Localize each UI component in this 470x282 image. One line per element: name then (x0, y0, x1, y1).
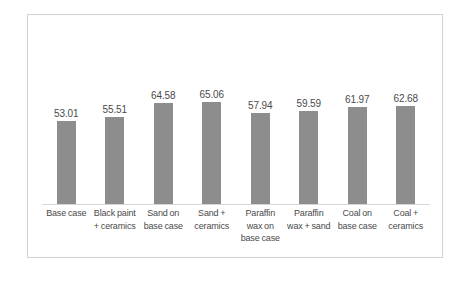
bar-value-label: 65.06 (188, 89, 237, 100)
category-label: Coal + ceramics (382, 207, 431, 232)
plot-area: 53.01 55.51 64.58 65.06 57.94 (28, 15, 442, 257)
category-label: Black paint + ceramics (91, 207, 140, 232)
bar-group: 64.58 (139, 15, 188, 204)
category-label: Sand on base case (139, 207, 188, 232)
bar-rect (57, 121, 76, 204)
bar-group: 61.97 (333, 15, 382, 204)
category-label: Paraffin wax on base case (236, 207, 285, 245)
bar-value-label: 62.68 (382, 93, 431, 104)
category-label: Sand + ceramics (188, 207, 237, 232)
category-label: Base case (42, 207, 91, 220)
bar-rect (396, 106, 415, 204)
bar-value-label: 61.97 (333, 94, 382, 105)
bar-group: 59.59 (285, 15, 334, 204)
bar-chart-figure: 53.01 55.51 64.58 65.06 57.94 (0, 0, 470, 282)
bar-rect (251, 113, 270, 204)
bar-group: 62.68 (382, 15, 431, 204)
bar-value-label: 59.59 (285, 98, 334, 109)
bar-rect (105, 117, 124, 204)
bar-value-label: 64.58 (139, 90, 188, 101)
category-label: Paraffin wax + sand (285, 207, 334, 232)
bar-rect (202, 102, 221, 204)
bar-rect (299, 111, 318, 204)
chart-frame: 53.01 55.51 64.58 65.06 57.94 (27, 14, 443, 258)
bar-rect (348, 107, 367, 204)
bar-group: 55.51 (91, 15, 140, 204)
bar-value-label: 55.51 (91, 104, 140, 115)
bar-group: 57.94 (236, 15, 285, 204)
bar-group: 53.01 (42, 15, 91, 204)
bar-group: 65.06 (188, 15, 237, 204)
category-axis-line (42, 204, 430, 205)
category-labels-container: Base case Black paint + ceramics Sand on… (42, 207, 430, 245)
bar-value-label: 53.01 (42, 108, 91, 119)
bar-value-label: 57.94 (236, 100, 285, 111)
bar-rect (154, 103, 173, 204)
category-label: Coal on base case (333, 207, 382, 232)
bars-container: 53.01 55.51 64.58 65.06 57.94 (42, 15, 430, 204)
